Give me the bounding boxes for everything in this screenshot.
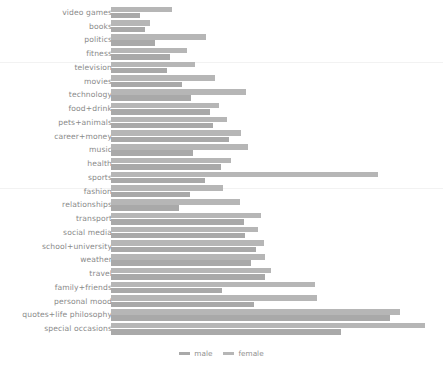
chart-row: pets+animals: [0, 116, 443, 130]
bar-male: [111, 178, 205, 184]
bar-group: [111, 144, 443, 158]
category-label: fashion: [84, 188, 112, 196]
chart-row: relationships: [0, 199, 443, 213]
bar-group: [111, 6, 443, 20]
category-label: family+friends: [55, 284, 112, 292]
bar-female: [111, 34, 206, 40]
bar-female: [111, 295, 317, 301]
legend-label: female: [238, 350, 263, 357]
bar-group: [111, 102, 443, 116]
bar-group: [111, 226, 443, 240]
bar-female: [111, 240, 264, 246]
bar-group: [111, 254, 443, 268]
bar-male: [111, 95, 191, 101]
bar-male: [111, 329, 341, 335]
bar-male: [111, 123, 213, 129]
bar-male: [111, 109, 210, 115]
bar-male: [111, 54, 170, 60]
plot-area: video gamesbookspoliticsfitnesstelevisio…: [0, 0, 443, 341]
category-label: health: [87, 160, 112, 168]
legend-item-male[interactable]: male: [179, 350, 212, 357]
bar-group: [111, 281, 443, 295]
chart-legend: malefemale: [0, 350, 443, 357]
bar-group: [111, 61, 443, 75]
bar-female: [111, 117, 227, 123]
bar-female: [111, 227, 258, 233]
legend-swatch-icon: [223, 352, 234, 355]
bar-male: [111, 40, 155, 46]
bar-female: [111, 172, 378, 178]
chart-row: school+university: [0, 240, 443, 254]
category-label: books: [89, 23, 112, 31]
chart-row: health: [0, 157, 443, 171]
category-label: school+university: [42, 243, 112, 251]
bar-female: [111, 7, 172, 13]
category-label: quotes+life philosophy: [22, 312, 112, 320]
category-label: movies: [84, 78, 112, 86]
category-label: fitness: [86, 50, 112, 58]
bar-male: [111, 137, 229, 143]
bar-female: [111, 89, 246, 95]
category-label: travel: [89, 270, 112, 278]
bar-group: [111, 116, 443, 130]
category-label: politics: [84, 37, 112, 45]
bar-group: [111, 267, 443, 281]
bar-male: [111, 27, 145, 33]
bar-female: [111, 20, 150, 26]
bar-female: [111, 268, 271, 274]
bar-group: [111, 47, 443, 61]
chart-row: weather: [0, 254, 443, 268]
bar-male: [111, 247, 256, 253]
category-label: pets+animals: [58, 119, 112, 127]
bar-male: [111, 302, 254, 308]
chart-row: video games: [0, 6, 443, 20]
bar-male: [111, 82, 182, 88]
legend-item-female[interactable]: female: [223, 350, 263, 357]
bar-group: [111, 185, 443, 199]
bar-male: [111, 164, 221, 170]
category-label: food+drink: [69, 105, 112, 113]
bar-group: [111, 309, 443, 323]
bar-female: [111, 130, 241, 136]
legend-swatch-icon: [179, 352, 190, 355]
bar-female: [111, 185, 223, 191]
bar-group: [111, 199, 443, 213]
category-label: television: [74, 64, 112, 72]
chart-row: music: [0, 144, 443, 158]
category-label: career+money: [54, 133, 112, 141]
chart-row: food+drink: [0, 102, 443, 116]
bar-male: [111, 288, 222, 294]
bar-group: [111, 34, 443, 48]
chart-row: technology: [0, 89, 443, 103]
category-label: special occasions: [44, 325, 112, 333]
legend-label: male: [194, 350, 212, 357]
horizontal-bar-chart: video gamesbookspoliticsfitnesstelevisio…: [0, 0, 443, 379]
chart-row: personal mood: [0, 295, 443, 309]
bar-male: [111, 233, 245, 239]
chart-row: sports: [0, 171, 443, 185]
bar-female: [111, 282, 315, 288]
chart-row: special occasions: [0, 322, 443, 336]
bar-male: [111, 150, 193, 156]
category-label: weather: [80, 257, 112, 265]
bar-group: [111, 295, 443, 309]
bar-group: [111, 322, 443, 336]
bar-group: [111, 130, 443, 144]
bar-female: [111, 75, 215, 81]
category-label: music: [89, 147, 112, 155]
category-label: personal mood: [54, 298, 112, 306]
chart-row: movies: [0, 75, 443, 89]
bar-female: [111, 309, 400, 315]
bar-group: [111, 171, 443, 185]
bar-female: [111, 158, 231, 164]
bar-male: [111, 274, 265, 280]
category-label: technology: [69, 92, 112, 100]
chart-row: travel: [0, 267, 443, 281]
chart-row: transport: [0, 212, 443, 226]
chart-row: quotes+life philosophy: [0, 309, 443, 323]
category-label: transport: [76, 215, 112, 223]
bar-male: [111, 260, 251, 266]
bar-group: [111, 212, 443, 226]
bar-group: [111, 157, 443, 171]
category-label: sports: [88, 174, 112, 182]
